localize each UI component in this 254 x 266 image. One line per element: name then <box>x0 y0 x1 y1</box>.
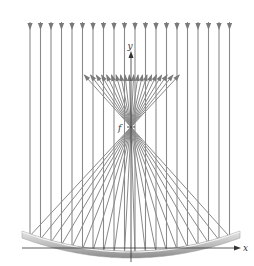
arrow-down-icon <box>195 23 200 30</box>
arrow-down-icon <box>164 23 169 30</box>
arrow-icon <box>96 74 102 81</box>
arrow-down-icon <box>143 23 148 30</box>
parabolic-mirror-diagram: x y f <box>0 0 254 266</box>
y-axis-label: y <box>127 41 134 51</box>
arrow-down-icon <box>185 23 190 30</box>
arrow-down-icon <box>101 23 106 30</box>
arrow-down-icon <box>38 23 43 30</box>
arrow-down-icon <box>174 23 179 30</box>
arrow-icon <box>157 74 163 81</box>
arrow-down-icon <box>80 23 85 30</box>
arrow-down-icon <box>111 23 116 30</box>
arrow-down-icon <box>48 23 53 30</box>
arrow-icon <box>135 74 140 81</box>
arrow-down-icon <box>59 23 64 30</box>
reflected-ray <box>51 75 167 242</box>
focus-label: f <box>117 123 123 133</box>
arrow-down-icon <box>90 23 95 30</box>
arrow-down-icon <box>216 23 221 30</box>
x-axis-arrow-icon <box>234 246 241 251</box>
arrow-down-icon <box>69 23 74 30</box>
arrow-down-icon <box>27 23 32 30</box>
arrow-down-icon <box>206 23 211 30</box>
arrow-icon <box>106 74 111 81</box>
arrow-icon <box>115 74 120 81</box>
arrow-down-icon <box>122 23 127 30</box>
arrow-icon <box>147 74 152 81</box>
x-axis-label: x <box>243 243 248 253</box>
reflected-rays <box>30 74 230 253</box>
reflected-ray <box>107 75 188 248</box>
arrow-down-icon <box>153 23 158 30</box>
y-axis-arrow-icon <box>129 51 134 58</box>
reflected-ray <box>93 75 147 251</box>
arrow-down-icon <box>227 23 232 30</box>
arrow-down-icon <box>132 23 137 30</box>
